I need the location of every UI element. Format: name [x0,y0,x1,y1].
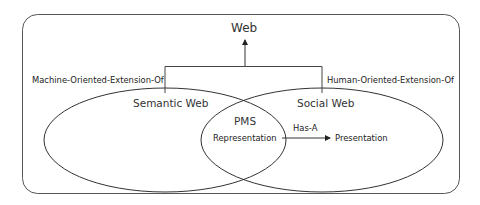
social-web-label: Social Web [297,98,354,109]
has-a-label: Has-A [293,124,317,132]
representation-label: Representation [213,134,277,142]
outer-frame [23,15,460,194]
human-oriented-label: Human-Oriented-Extension-Of [327,76,454,84]
machine-oriented-label: Machine-Oriented-Extension-Of [32,76,164,84]
pms-label: PMS [234,116,256,127]
semantic-web-label: Semantic Web [133,98,208,109]
presentation-label: Presentation [335,134,388,142]
web-label: Web [231,22,257,34]
